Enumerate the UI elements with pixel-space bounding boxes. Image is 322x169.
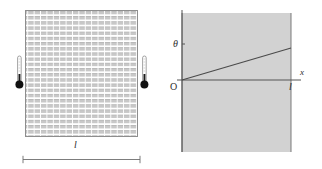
wall-thickness-dimension-line: [22, 155, 141, 164]
thermometer-right-icon: [140, 55, 149, 91]
origin-label: O: [170, 82, 177, 92]
y-axis-label: θ: [173, 39, 178, 49]
thermometer-bulb: [15, 81, 23, 89]
x-axis-label: x: [300, 68, 304, 77]
panel-brick-wall: l: [0, 0, 161, 169]
graph-shaded-region: [182, 13, 291, 152]
panel-temperature-graph: θ O x l: [161, 0, 322, 169]
wall-thickness-label: l: [74, 140, 77, 150]
brick-wall-texture: [25, 10, 138, 137]
x-end-label: l: [289, 82, 292, 92]
temperature-profile-plot: [161, 0, 322, 169]
thermometer-left-icon: [15, 55, 24, 91]
figure-root: l θ O x l: [0, 0, 322, 169]
thermometer-bulb: [140, 81, 148, 89]
